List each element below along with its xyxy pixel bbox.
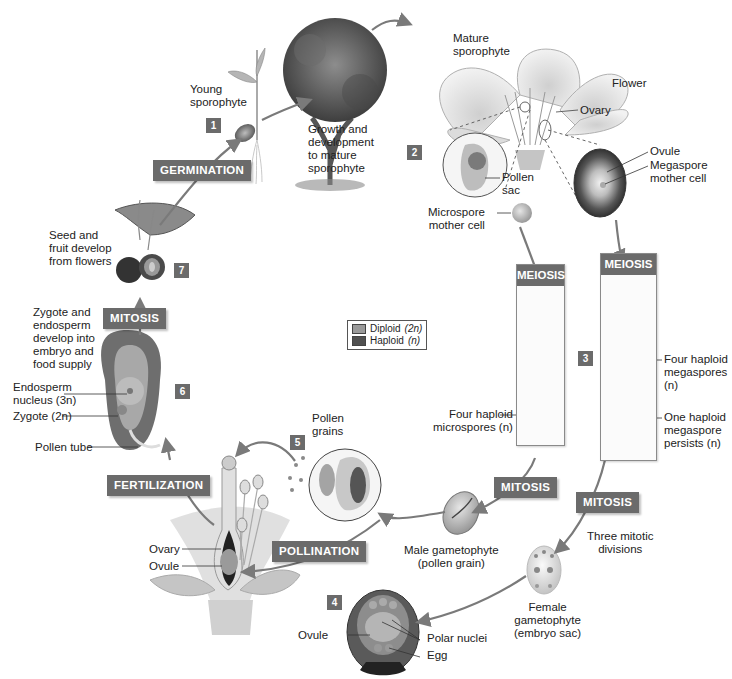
label-polar-nuclei: Polar nuclei xyxy=(427,632,487,645)
label-female-gametophyte: Female gametophyte (embryo sac) xyxy=(514,601,581,640)
step-number-6: 6 xyxy=(175,384,190,399)
stage-mitosis-male: MITOSIS xyxy=(494,477,557,498)
label-ovule-top: Ovule xyxy=(650,145,680,158)
ovule-fertilization-illustration xyxy=(347,590,420,675)
legend-diploid-ploidy: (2n) xyxy=(405,323,423,335)
label-egg: Egg xyxy=(427,649,447,662)
label-zygote-endosperm-develop: Zygote and endosperm develop into embryo… xyxy=(33,306,95,371)
label-young-sporophyte: Young sporophyte xyxy=(190,83,247,109)
step-number-7: 7 xyxy=(174,263,189,278)
step-number-1: 1 xyxy=(206,118,221,133)
embryo-sac-illustration xyxy=(527,546,561,594)
legend-haploid-ploidy: (n) xyxy=(408,335,420,347)
stage-meiosis-male: MEIOSIS xyxy=(517,265,564,286)
label-ovule-bottom: Ovule xyxy=(298,629,328,642)
stage-fertilization: FERTILIZATION xyxy=(107,475,210,496)
microspore-mother-cell-illustration xyxy=(512,203,532,223)
label-megaspore-mother-cell: Megaspore mother cell xyxy=(650,159,708,185)
label-microspore-mother-cell: Microspore mother cell xyxy=(428,206,485,232)
legend-haploid: Haploid (n) xyxy=(352,335,422,347)
label-three-mitotic-divisions: Three mitotic divisions xyxy=(587,530,653,556)
label-ovary-flower: Ovary xyxy=(149,543,180,556)
label-zygote: Zygote (2n) xyxy=(13,410,72,423)
diploid-swatch xyxy=(352,324,366,334)
stage-mitosis-zygote: MITOSIS xyxy=(103,308,166,329)
stage-germination: GERMINATION xyxy=(153,160,251,181)
legend-diploid: Diploid (2n) xyxy=(352,323,422,335)
step-number-3: 3 xyxy=(578,351,593,366)
label-endosperm-nucleus: Endosperm nucleus (3n) xyxy=(13,381,76,407)
stage-pollination: POLLINATION xyxy=(272,541,366,562)
step-number-5: 5 xyxy=(290,435,305,450)
label-ovary-top: Ovary xyxy=(580,104,611,117)
haploid-swatch xyxy=(352,336,366,346)
pollen-sac-illustration xyxy=(443,133,507,197)
legend-diploid-label: Diploid xyxy=(370,323,401,335)
label-four-haploid-megaspores: Four haploid megaspores (n) xyxy=(664,353,728,392)
label-pollen-grains: Pollen grains xyxy=(312,412,344,438)
label-growth: Growth and development to mature sporoph… xyxy=(308,123,374,175)
label-pollen-sac: Pollen sac xyxy=(502,171,534,197)
step-number-2: 2 xyxy=(407,145,422,160)
label-seed-fruit: Seed and fruit develop from flowers xyxy=(49,229,112,268)
meiosis-panel-male: MEIOSIS xyxy=(516,264,565,446)
ploidy-legend: Diploid (2n) Haploid (n) xyxy=(347,320,427,350)
stage-mitosis-female: MITOSIS xyxy=(576,492,639,513)
step-number-4: 4 xyxy=(327,595,342,610)
angiosperm-life-cycle-diagram: 1 2 3 4 5 6 7 GERMINATION MITOSIS FERTIL… xyxy=(0,0,732,679)
label-ovule-flower: Ovule xyxy=(149,560,179,573)
label-mature-sporophyte: Mature sporophyte xyxy=(453,32,510,58)
label-four-haploid-microspores: Four haploid microspores (n) xyxy=(433,408,513,434)
label-pollen-tube: Pollen tube xyxy=(35,441,93,454)
legend-haploid-label: Haploid xyxy=(370,335,404,347)
stage-meiosis-female: MEIOSIS xyxy=(601,254,656,275)
ovule-megaspore-illustration xyxy=(574,149,648,217)
label-one-haploid-megaspore: One haploid megaspore persists (n) xyxy=(664,411,726,450)
label-flower: Flower xyxy=(612,77,647,90)
meiosis-panel-female: MEIOSIS xyxy=(600,253,657,461)
label-male-gametophyte: Male gametophyte (pollen grain) xyxy=(404,544,499,570)
